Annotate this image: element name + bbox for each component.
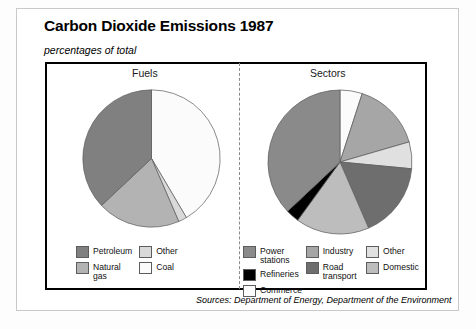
legend-label: Domestic bbox=[383, 262, 419, 272]
legend-label: Road transport bbox=[323, 262, 357, 281]
legend-swatch bbox=[366, 246, 379, 258]
legend-label: Industry bbox=[323, 246, 354, 256]
legend-item: Other bbox=[139, 246, 178, 258]
legend-item: Refineries bbox=[243, 269, 299, 281]
page-subtitle: percentages of total bbox=[44, 44, 136, 56]
page-title: Carbon Dioxide Emissions 1987 bbox=[44, 17, 273, 35]
legend-label: Natural gas bbox=[93, 262, 121, 281]
legend-swatch bbox=[139, 246, 152, 258]
legend-label: Petroleum bbox=[93, 246, 132, 256]
legend-item: Coal bbox=[139, 262, 178, 274]
legend-swatch bbox=[243, 269, 256, 281]
pie-chart-sectors bbox=[265, 87, 415, 237]
legend-sectors: Power stationsRefineriesIndustryRoad tra… bbox=[243, 246, 476, 301]
legend-swatch bbox=[306, 262, 319, 274]
legend-swatch bbox=[76, 246, 89, 258]
legend-item: Other bbox=[366, 246, 419, 258]
legend-item: Petroleum bbox=[76, 246, 132, 258]
chart-page: Carbon Dioxide Emissions 1987 percentage… bbox=[0, 0, 476, 329]
legend-swatch bbox=[76, 262, 89, 274]
pie-title-sectors: Sectors bbox=[310, 67, 346, 79]
pie-title-fuels: Fuels bbox=[132, 67, 158, 79]
legend-label: Commerce bbox=[260, 285, 302, 295]
pie-chart-fuels bbox=[80, 87, 223, 230]
legend-label: Other bbox=[156, 246, 178, 256]
legend-label: Coal bbox=[156, 262, 174, 272]
legend-item: Power stations bbox=[243, 246, 299, 265]
panel-divider bbox=[239, 63, 240, 289]
legend-swatch bbox=[139, 262, 152, 274]
legend-item: Road transport bbox=[306, 262, 357, 281]
legend-swatch bbox=[306, 246, 319, 258]
legend-fuels: PetroleumNatural gasOtherCoal bbox=[76, 246, 185, 285]
legend-item: Industry bbox=[306, 246, 357, 258]
legend-swatch bbox=[366, 262, 379, 274]
legend-swatch bbox=[243, 246, 256, 258]
legend-label: Power stations bbox=[260, 246, 290, 265]
legend-item: Natural gas bbox=[76, 262, 132, 281]
legend-item: Domestic bbox=[366, 262, 419, 274]
legend-label: Refineries bbox=[260, 269, 299, 279]
legend-label: Other bbox=[383, 246, 405, 256]
source-note: Sources: Department of Energy, Departmen… bbox=[196, 295, 451, 305]
